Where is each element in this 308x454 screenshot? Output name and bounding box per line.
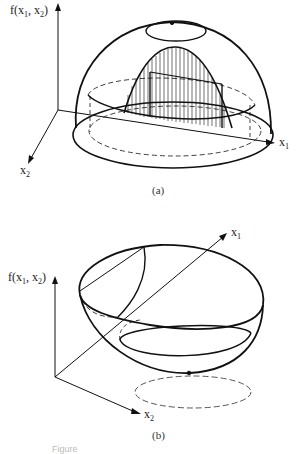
x2-axis-arrow-a	[28, 155, 34, 164]
mid-ellipse-front-a	[88, 95, 255, 119]
x2-axis-b	[55, 377, 135, 412]
minimum-point-b	[187, 371, 191, 375]
bowl-inner-curve-b	[118, 247, 145, 317]
caption-b: (b)	[152, 429, 165, 441]
figure-caption-partial: Figure	[52, 444, 78, 454]
x1-axis-b	[55, 237, 223, 377]
f-axis-arrow-a	[55, 3, 61, 11]
x2-axis-label-a: x2	[20, 164, 30, 179]
mid-ellipse-back-b	[120, 326, 251, 340]
x1-axis-label-b: x1	[231, 226, 241, 241]
bowl-body-b	[80, 295, 263, 373]
f-axis-label-b: f(x1, x2)	[8, 271, 46, 286]
f-axis-label-a: f(x1, x2)	[10, 4, 48, 19]
caption-a: (a)	[152, 184, 164, 196]
panel-b	[52, 233, 263, 414]
panel-a	[28, 3, 275, 168]
f-axis-arrow-b	[52, 276, 58, 284]
base-ellipse-inner-a	[89, 106, 261, 156]
top-point-a	[170, 21, 173, 24]
x2-axis-arrow-b	[131, 408, 141, 414]
x2-axis-a	[30, 110, 58, 160]
slice-top-chord-a	[150, 72, 222, 84]
x1-axis-label-a: x1	[279, 136, 289, 151]
mid-ellipse-back-a	[88, 78, 255, 105]
top-ellipse-a	[146, 21, 206, 41]
hatched-cross-section-a	[128, 48, 224, 128]
projected-ellipse-b	[135, 376, 251, 408]
x2-axis-label-b: x2	[144, 408, 154, 423]
mid-ellipse-front-b	[120, 333, 251, 356]
bowl-rim-b	[79, 245, 263, 329]
